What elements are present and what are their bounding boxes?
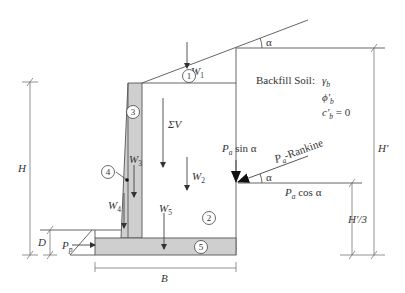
H-prime-third-label: H′/3: [347, 213, 367, 225]
passive-wedge-line: [70, 230, 92, 255]
pa-cos-label: Pa cos α: [284, 186, 322, 201]
svg-text:5: 5: [199, 242, 204, 252]
zone-marker-1: 1: [183, 70, 196, 83]
retaining-wall-diagram: α H D B H′: [0, 0, 405, 293]
H-label: H: [17, 162, 27, 174]
dimension-D: D: [37, 226, 57, 259]
dimension-B: B: [95, 262, 236, 284]
backfill-phi: ϕ′b: [322, 91, 334, 106]
pa-rankine-arrow: [238, 156, 308, 182]
w4-label: W4: [108, 199, 121, 214]
zone-4-pointer-dot: [125, 178, 129, 182]
H-prime-label: H′: [377, 142, 389, 154]
D-label: D: [37, 236, 46, 248]
alpha-label-top: α: [266, 36, 272, 48]
backfill-soil-label: Backfill Soil:: [256, 74, 315, 86]
backfill-gamma: γb: [322, 74, 330, 89]
base-slab: [95, 238, 236, 255]
svg-text:1: 1: [187, 71, 192, 81]
w2-label: W2: [192, 170, 205, 185]
svg-text:2: 2: [207, 213, 212, 223]
w5-label: W5: [159, 202, 172, 217]
zone-marker-3: 3: [127, 106, 140, 119]
zone-marker-5: 5: [195, 241, 208, 254]
svg-text:4: 4: [106, 167, 111, 177]
angle-arc-force: [260, 174, 262, 183]
sum-v-label: ΣV: [167, 118, 183, 130]
zone-marker-4: 4: [102, 166, 115, 179]
svg-text:3: 3: [131, 107, 136, 117]
angle-arc-top: [260, 38, 262, 48]
alpha-label-force: α: [266, 171, 272, 183]
pp-label: Pp: [61, 239, 73, 254]
dimension-H-prime: H′: [340, 44, 389, 259]
B-label: B: [161, 272, 168, 284]
pa-rankine-label: Pa-Rankine: [272, 136, 326, 168]
zone-marker-2: 2: [203, 212, 216, 225]
dimension-H-prime-third: H′/3: [347, 179, 367, 259]
backfill-cohesion: c′b = 0: [322, 106, 351, 121]
pa-sin-label: Pa sin α: [221, 142, 257, 157]
dimension-H: H: [17, 78, 38, 259]
